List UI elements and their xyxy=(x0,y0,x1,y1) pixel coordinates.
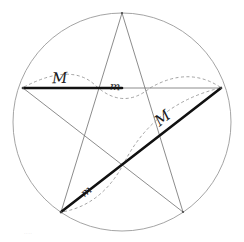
label-minor-horizontal: m xyxy=(110,81,121,93)
vertex-bottom-left xyxy=(60,211,62,213)
vertex-left xyxy=(22,87,24,89)
label-major-horizontal: M xyxy=(52,71,68,87)
pentagram-figure xyxy=(0,0,244,242)
vertex-right xyxy=(220,87,222,89)
vertex-bottom-right xyxy=(182,211,184,213)
corner-artifact-mark: ···· xyxy=(24,231,32,236)
figure-background xyxy=(0,0,244,242)
vertex-top xyxy=(121,12,123,14)
diagram-canvas: M m M m ···· xyxy=(0,0,244,242)
